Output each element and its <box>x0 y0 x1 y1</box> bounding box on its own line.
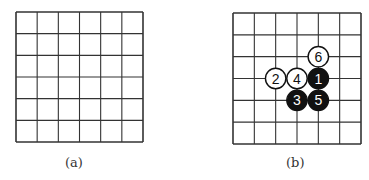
diagram-canvas: 123456 <box>0 0 369 180</box>
caption-b: (b) <box>286 155 304 170</box>
stone-black-1: 1 <box>308 68 328 88</box>
caption-a: (a) <box>65 155 83 170</box>
stone-label: 4 <box>293 71 301 87</box>
stone-label: 1 <box>314 71 322 87</box>
stone-label: 5 <box>314 92 322 108</box>
grid-b: 123456 <box>233 13 361 144</box>
stone-white-2: 2 <box>265 68 285 88</box>
stone-black-3: 3 <box>287 90 307 110</box>
stone-white-6: 6 <box>308 46 328 66</box>
stone-label: 2 <box>272 71 280 87</box>
stone-label: 6 <box>314 49 322 65</box>
stone-label: 3 <box>293 92 301 108</box>
grid-a <box>16 12 143 142</box>
stone-white-4: 4 <box>287 68 307 88</box>
stone-black-5: 5 <box>308 90 328 110</box>
